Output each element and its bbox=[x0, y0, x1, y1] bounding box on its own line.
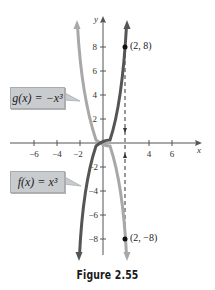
curve-g-arrow-bottom-icon bbox=[124, 252, 131, 261]
figure-caption: Figure 2.55 bbox=[24, 268, 192, 282]
curve-f-arrow-top-icon bbox=[124, 20, 131, 29]
svg-text:−4: −4 bbox=[52, 149, 62, 159]
svg-text:4: 4 bbox=[147, 149, 152, 159]
svg-text:6: 6 bbox=[93, 66, 98, 76]
svg-text:−6: −6 bbox=[29, 149, 39, 159]
y-axis-arrow-icon bbox=[100, 16, 106, 23]
dashed-arrow-up-icon bbox=[123, 128, 127, 133]
svg-text:−2: −2 bbox=[73, 149, 83, 159]
svg-text:x: x bbox=[196, 145, 201, 155]
f-callout-pointer bbox=[63, 176, 81, 186]
svg-text:−4: −4 bbox=[88, 186, 98, 196]
cubic-graph: −6 −4 −2 4 6 x y 8 6 4 2 −2 −4 −6 −8 bbox=[0, 0, 215, 290]
curve-f-arrow-bottom-icon bbox=[76, 252, 83, 261]
point-label-2-8: (2, 8) bbox=[130, 40, 152, 51]
point-2-8 bbox=[123, 45, 128, 50]
svg-text:8: 8 bbox=[93, 42, 98, 52]
point-2-neg8 bbox=[123, 237, 128, 242]
svg-text:2: 2 bbox=[93, 114, 98, 124]
g-callout-pointer bbox=[63, 92, 80, 101]
curve-g-arrow-top-icon bbox=[74, 20, 81, 29]
svg-text:4: 4 bbox=[93, 90, 98, 100]
svg-text:−6: −6 bbox=[88, 210, 98, 220]
g-label: g(x) = −x³ bbox=[10, 87, 65, 109]
svg-text:−8: −8 bbox=[88, 234, 98, 244]
point-label-2-neg8: (2, −8) bbox=[130, 232, 157, 243]
svg-text:y: y bbox=[93, 14, 98, 24]
svg-text:6: 6 bbox=[170, 149, 175, 159]
dashed-arrow-down-icon bbox=[123, 153, 127, 158]
f-label: f(x) = x³ bbox=[10, 171, 65, 193]
